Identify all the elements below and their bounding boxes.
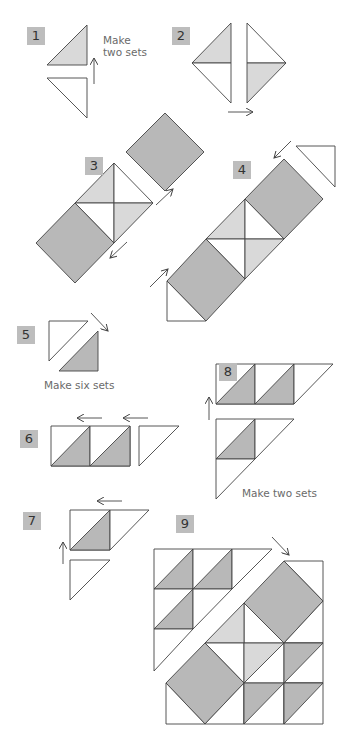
step6-pieces — [51, 418, 179, 466]
step8-pieces — [209, 364, 333, 499]
quilt-diagram — [0, 0, 341, 738]
step3-pieces — [36, 113, 204, 283]
step-4-label: 4 — [233, 161, 251, 179]
step-1-label: 1 — [27, 27, 45, 45]
step-7-label: 7 — [23, 512, 41, 530]
step-9-label: 9 — [176, 515, 194, 533]
step5-pieces — [49, 313, 108, 371]
step7-pieces — [63, 501, 149, 600]
step-8-label: 8 — [219, 363, 237, 381]
step-1-note-line1: Make — [103, 34, 131, 46]
step-8-note: Make two sets — [242, 487, 317, 499]
step2-pieces — [192, 23, 286, 112]
step1-pieces — [47, 25, 94, 118]
step-1-note-line2: two sets — [103, 46, 147, 58]
step-3-label: 3 — [85, 157, 103, 175]
step-5-note: Make six sets — [44, 379, 114, 391]
step9-pieces — [154, 537, 323, 724]
step-6-label: 6 — [20, 430, 38, 448]
step-5-label: 5 — [17, 326, 35, 344]
step-2-label: 2 — [172, 27, 190, 45]
